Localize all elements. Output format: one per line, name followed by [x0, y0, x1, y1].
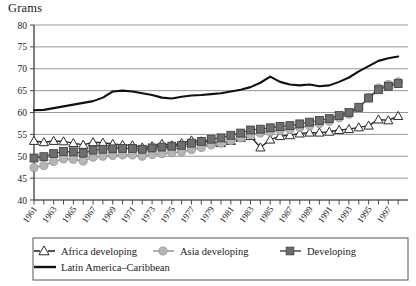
data-point-marker	[286, 247, 294, 255]
y-axis-tick-label: 60	[18, 108, 28, 118]
series-line	[34, 57, 398, 111]
data-point-marker	[138, 145, 146, 153]
data-point-marker	[178, 141, 186, 149]
y-axis-tick-label: 65	[18, 86, 28, 96]
data-point-marker	[375, 86, 383, 94]
x-axis-tick-label: 1993	[336, 204, 355, 225]
y-axis-tick-label: 50	[18, 152, 28, 162]
y-axis-tick-label: 45	[18, 174, 28, 184]
chart-svg: 404550556065707580 196119631965196719691…	[0, 0, 416, 286]
data-point-marker	[374, 115, 383, 123]
series-layer	[29, 57, 402, 172]
data-point-marker	[315, 116, 323, 124]
data-point-marker	[365, 94, 373, 102]
data-point-marker	[325, 115, 333, 123]
x-axis-tick-label: 1965	[60, 204, 79, 225]
data-point-marker	[227, 131, 235, 139]
data-point-marker	[40, 161, 48, 169]
legend-label: Africa developing	[61, 246, 138, 257]
y-axis-tick-label: 40	[18, 196, 28, 206]
data-point-marker	[188, 139, 196, 147]
series-developing	[30, 80, 402, 162]
x-axis-tick-label: 1963	[40, 204, 59, 225]
data-point-marker	[197, 137, 205, 145]
data-point-marker	[40, 153, 48, 161]
x-axis-tick-label: 1971	[119, 204, 138, 224]
data-point-marker	[50, 150, 58, 158]
x-axis-tick-label: 1995	[355, 204, 374, 225]
y-axis: 404550556065707580	[18, 21, 35, 206]
data-point-marker	[168, 142, 176, 150]
x-axis-tick-label: 1977	[178, 204, 197, 225]
series-latin-america-caribbean	[34, 57, 398, 111]
data-point-marker	[306, 118, 314, 126]
x-axis-tick-label: 1975	[158, 204, 177, 225]
data-point-marker	[247, 126, 255, 134]
data-point-marker	[207, 135, 215, 143]
x-axis-tick-label: 1981	[217, 204, 236, 224]
data-point-marker	[29, 136, 38, 144]
x-axis: 1961196319651967196919711973197519771979…	[21, 200, 408, 225]
x-axis-tick-label: 1967	[80, 204, 99, 225]
y-axis-tick-label: 70	[18, 64, 28, 74]
y-axis-tick-label: 55	[18, 130, 28, 140]
data-point-marker	[394, 80, 402, 88]
legend-item-developing[interactable]: Developing	[280, 246, 357, 257]
data-point-marker	[50, 157, 58, 165]
chart-container: Grams 404550556065707580 196119631965196…	[0, 0, 416, 286]
x-axis-tick-label: 1961	[21, 204, 40, 224]
x-axis-tick-label: 1979	[198, 204, 217, 225]
data-point-marker	[158, 143, 166, 151]
series-line	[34, 116, 398, 148]
legend-label: Developing	[307, 246, 357, 257]
data-point-marker	[89, 146, 97, 154]
data-point-marker	[148, 144, 156, 152]
data-point-marker	[384, 82, 392, 90]
data-point-marker	[79, 149, 87, 157]
data-point-marker	[286, 122, 294, 130]
chart-legend: Africa developingAsia developingDevelopi…	[33, 238, 408, 280]
data-point-marker	[79, 157, 87, 165]
data-point-marker	[159, 247, 167, 255]
data-point-marker	[30, 154, 38, 162]
data-point-marker	[355, 103, 363, 111]
data-point-marker	[30, 164, 38, 172]
data-point-marker	[335, 112, 343, 120]
x-axis-tick-label: 1973	[139, 204, 158, 225]
data-point-marker	[237, 129, 245, 137]
data-point-marker	[276, 123, 284, 131]
data-point-marker	[345, 109, 353, 117]
data-point-marker	[99, 145, 107, 153]
legend-label: Asia developing	[180, 246, 249, 257]
data-point-marker	[217, 134, 225, 142]
data-point-marker	[60, 147, 68, 155]
data-point-marker	[69, 155, 77, 163]
data-point-marker	[69, 148, 77, 156]
legend-box	[33, 238, 408, 280]
series-asia-developing	[30, 78, 402, 172]
legend-label: Latin America–Caribbean	[61, 262, 170, 273]
y-axis-tick-label: 80	[18, 21, 28, 31]
x-axis-tick-label: 1989	[296, 204, 315, 225]
x-axis-tick-label: 1987	[277, 204, 296, 225]
data-point-marker	[296, 120, 304, 128]
data-point-marker	[59, 155, 67, 163]
x-axis-tick-label: 1969	[99, 204, 118, 225]
x-axis-tick-label: 1991	[316, 204, 335, 224]
data-point-marker	[119, 144, 127, 152]
x-axis-tick-label: 1983	[237, 204, 256, 225]
x-axis-tick-label: 1997	[375, 204, 394, 225]
data-point-marker	[364, 121, 373, 129]
data-point-marker	[266, 124, 274, 132]
data-point-marker	[128, 144, 136, 152]
data-point-marker	[256, 125, 264, 133]
data-point-marker	[109, 145, 117, 153]
x-axis-tick-label: 1985	[257, 204, 276, 225]
y-axis-tick-label: 75	[18, 42, 28, 52]
